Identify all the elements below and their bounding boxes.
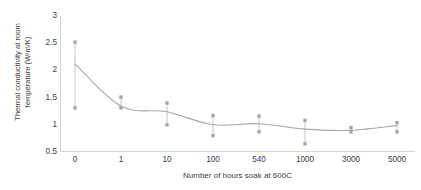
data-point-marker-min <box>349 130 352 133</box>
plot-svg <box>60 16 415 152</box>
data-point-marker-max <box>73 40 76 43</box>
y-tick-label: 1 <box>33 120 57 129</box>
x-tick-label: 1 <box>101 155 141 165</box>
data-point-marker-max <box>119 95 122 98</box>
x-axis-tick-labels: 0110100540100030005000 <box>60 155 415 167</box>
data-point-marker-max <box>211 114 214 117</box>
data-point-marker-max <box>257 114 260 117</box>
data-point-marker-max <box>303 119 306 122</box>
x-tick-label: 10 <box>147 155 187 165</box>
y-tick-label: 2.5 <box>33 38 57 47</box>
mean-line-series <box>75 64 397 131</box>
data-point-marker-min <box>73 106 76 109</box>
y-axis-title-line2: temperature (W/m/K) <box>23 37 32 108</box>
data-point-marker-min <box>119 106 122 109</box>
y-tick-label: 2 <box>33 65 57 74</box>
data-point-marker-min <box>165 123 168 126</box>
data-point-marker-max <box>349 126 352 129</box>
x-tick-label: 0 <box>55 155 95 165</box>
y-tick-label: 3 <box>33 11 57 20</box>
x-tick-label: 540 <box>239 155 279 165</box>
x-axis-title: Number of hours soak at 600C <box>60 170 415 181</box>
y-axis-title-line1: Thermal conductivity at room <box>13 23 22 121</box>
data-point-marker-min <box>257 130 260 133</box>
y-tick-label: 1.5 <box>33 93 57 102</box>
data-point-marker-min <box>395 130 398 133</box>
data-point-marker-min <box>211 134 214 137</box>
x-tick-label: 5000 <box>377 155 417 165</box>
y-tick-label: 0.5 <box>33 147 57 156</box>
thermal-conductivity-chart: Thermal conductivity at roomtemperature … <box>0 0 421 190</box>
x-tick-label: 1000 <box>285 155 325 165</box>
data-point-marker-max <box>395 121 398 124</box>
x-tick-label: 100 <box>193 155 233 165</box>
y-axis-title: Thermal conductivity at roomtemperature … <box>13 2 33 142</box>
data-point-marker-min <box>303 142 306 145</box>
y-axis-tick-labels: 32.521.510.5 <box>33 0 57 190</box>
data-point-marker-max <box>165 101 168 104</box>
error-bars-group <box>75 42 397 144</box>
plot-area <box>60 16 415 152</box>
x-tick-label: 3000 <box>331 155 371 165</box>
